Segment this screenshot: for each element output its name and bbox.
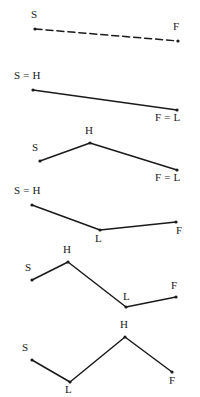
diagram-5-label: S [25,262,31,273]
diagram-5-point-marker [124,305,127,308]
diagram-6-segment [70,337,125,382]
diagram-2-label: S = H [14,70,41,81]
diagram-5-label: F [171,280,177,291]
diagram-2-point-marker [31,88,34,91]
diagram-5-point-marker [30,278,33,281]
diagram-1-segment [35,29,178,41]
diagram-5-label: L [123,291,130,302]
diagram-3-segment [40,143,90,161]
diagram-4-point-marker [30,203,33,206]
diagram-5-segment [126,297,176,307]
diagram-3-label: S [32,142,38,153]
diagram-5-label: H [63,244,71,255]
diagram-5-point-marker [66,260,69,263]
diagram-1-point-marker [176,39,179,42]
diagram-6-point-marker [123,335,126,338]
diagram-1-label: F [173,21,179,32]
diagram-6-label: H [120,319,128,330]
diagram-4-segment [100,222,176,230]
diagram-6-point-marker [30,358,33,361]
diagram-4-label: S = H [14,185,41,196]
diagram-2-segment [33,90,177,110]
diagram-1-point-marker [33,27,36,30]
diagram-paths [30,27,179,383]
line-diagram-figure: SFS = HF = LSHF = LS = HLFSHLFSLHF [0,0,200,397]
diagram-4-label: L [95,233,102,244]
diagram-6-label: F [169,375,175,386]
diagram-6-label: S [22,342,28,353]
diagram-4-label: F [176,225,182,236]
diagram-2-label: F = L [155,112,181,123]
diagram-3-label: F = L [155,172,181,183]
diagram-4-segment [32,205,100,230]
diagram-3-label: H [85,125,93,136]
diagram-5-segment [32,262,68,280]
diagram-3-point-marker [88,141,91,144]
diagram-1-label: S [31,9,37,20]
diagram-6-segment [125,337,172,372]
diagram-6-label: L [65,384,72,395]
diagram-3-segment [90,143,177,170]
diagram-5-point-marker [174,295,177,298]
diagram-3-point-marker [38,159,41,162]
diagram-canvas [0,0,200,397]
diagram-5-segment [68,262,126,307]
diagram-6-segment [32,360,70,382]
